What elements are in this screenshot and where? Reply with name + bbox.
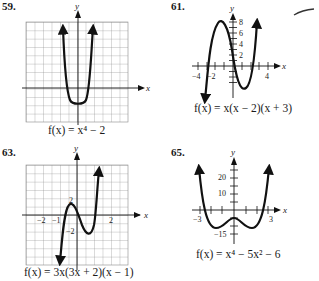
x-tick-label: −3 [193,215,202,224]
x-axis-label: x [145,83,150,93]
caption-65: f(x) = x⁴ − 5x² − 6 [196,248,280,260]
x-axis-arrow-icon [138,85,145,91]
y-tick-label: −2 [66,227,75,236]
y-axis-label: y [74,1,79,11]
x-axis-arrow-icon [274,63,281,69]
y-axis-label: y [230,147,235,157]
y-tick-label: −15 [214,230,227,239]
caption-63: f(x) = 3x(3x + 2)(x − 1) [24,266,134,278]
x-tick-label: −4 [192,72,201,81]
caption-59: f(x) = x⁴ − 2 [48,124,105,136]
x-tick-label: 4 [265,72,269,81]
y-axis-arrow-icon [74,152,80,160]
y-tick-label: 20 [218,173,226,182]
graph-61: x y 8 6 4 2 −4 −2 4 [192,3,286,100]
graph-59: x y [22,1,150,125]
y-tick-label: 8 [239,18,243,27]
y-axis-arrow-icon [75,10,81,18]
graph-65: x y 20 10 −15 −3 3 [192,147,287,244]
y-tick-label: 2 [239,51,243,60]
y-tick-label: 6 [239,29,243,38]
x-axis-arrow-icon [274,207,281,213]
graph-63: x y 2 −2 −2 −1 2 [22,143,148,270]
x-axis-label: x [281,61,286,71]
pen-mark [294,9,314,15]
y-axis-label: y [229,3,234,13]
x-tick-label: −1 [52,216,61,225]
y-tick-label: 4 [239,40,243,49]
x-axis-label: x [143,210,148,220]
x-tick-label: 2 [109,216,113,225]
y-axis-arrow-icon [230,13,236,20]
y-axis-arrow-icon [231,157,237,165]
y-tick-label: 10 [218,189,226,198]
x-tick-label: 3 [269,215,273,224]
graphs-canvas: x y x y 8 6 4 2 −4 −2 4 [0,0,319,281]
grid [26,22,128,122]
x-axis-label: x [282,205,287,215]
x-axis-arrow-icon [134,212,141,218]
x-tick-label: −2 [37,216,46,225]
caption-61: f(x) = x(x − 2)(x + 3) [194,102,292,114]
y-axis-label: y [73,143,78,153]
